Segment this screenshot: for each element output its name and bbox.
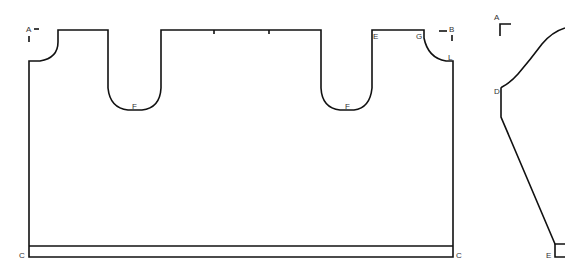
label-a: A bbox=[26, 25, 32, 34]
side-label-d: D bbox=[494, 87, 500, 96]
grain-mark-a-corner bbox=[500, 24, 511, 36]
main-panel-outline bbox=[29, 30, 453, 257]
label-e: E bbox=[373, 32, 378, 41]
side-piece-bottom bbox=[555, 244, 565, 257]
label-f-left: F bbox=[132, 102, 137, 111]
label-b: B bbox=[449, 25, 454, 34]
label-c-right: C bbox=[456, 251, 462, 260]
side-label-e: E bbox=[546, 251, 551, 260]
pattern-diagram: A B E G L F F C C A D E bbox=[0, 0, 565, 276]
label-l: L bbox=[448, 53, 453, 62]
side-label-a: A bbox=[494, 13, 500, 22]
label-g: G bbox=[416, 32, 422, 41]
label-c-left: C bbox=[19, 251, 25, 260]
label-f-right: F bbox=[345, 102, 350, 111]
side-piece-outline bbox=[501, 28, 565, 244]
